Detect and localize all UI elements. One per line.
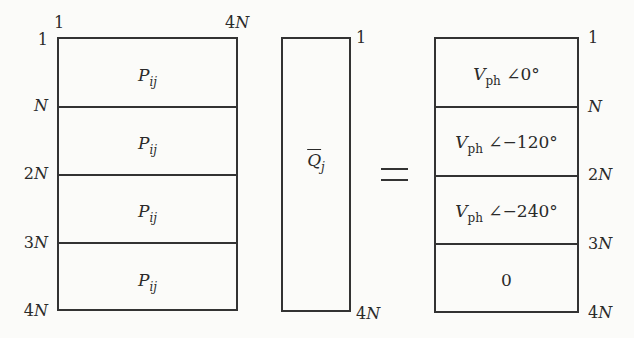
label-var: N bbox=[34, 96, 48, 115]
label-num: 2 bbox=[24, 164, 34, 183]
label-var: N bbox=[588, 97, 602, 116]
label-var: N bbox=[34, 233, 48, 252]
label-text: 1 bbox=[38, 30, 48, 49]
subscript: ph bbox=[485, 74, 500, 88]
angle-value: 0° bbox=[521, 64, 540, 84]
symbol: P bbox=[138, 201, 149, 221]
right-row-label-2N: 2N bbox=[588, 167, 612, 183]
angle-value: −120° bbox=[503, 132, 558, 152]
block-label-P-3: Pij bbox=[59, 201, 236, 223]
right-row-label-3N: 3N bbox=[588, 236, 612, 252]
left-row-label-4N: 4N bbox=[14, 303, 48, 319]
label-var: N bbox=[598, 165, 612, 184]
label-var: N bbox=[598, 234, 612, 253]
block-divider-2N bbox=[436, 175, 577, 177]
subscript: ph bbox=[468, 142, 483, 156]
subscript: ij bbox=[149, 75, 157, 89]
block-divider-N bbox=[59, 106, 236, 108]
angle-icon: ∠ bbox=[488, 201, 502, 221]
label-num: 2 bbox=[588, 165, 598, 184]
left-row-label-3N: 3N bbox=[14, 235, 48, 251]
right-row-label-1: 1 bbox=[588, 30, 598, 46]
middle-vector-Q: Qj bbox=[281, 37, 351, 312]
subscript: ij bbox=[149, 211, 157, 225]
label-var: N bbox=[34, 164, 48, 183]
label-num: 3 bbox=[588, 234, 598, 253]
right-vector-V: Vph ∠0° Vph ∠−120° Vph ∠−240° 0 bbox=[434, 37, 579, 313]
right-row-label-4N: 4N bbox=[588, 305, 612, 321]
block-label-V-minus240deg: Vph ∠−240° bbox=[436, 201, 577, 223]
block-label-P-2: Pij bbox=[59, 133, 236, 155]
label-num: 4 bbox=[588, 303, 598, 322]
equals-sign-top-bar bbox=[381, 168, 408, 170]
zero-value: 0 bbox=[501, 270, 512, 290]
equals-sign-bottom-bar bbox=[381, 179, 408, 181]
label-text: 1 bbox=[54, 13, 64, 32]
angle-icon: ∠ bbox=[506, 64, 520, 84]
block-divider-N bbox=[436, 106, 577, 108]
left-col-label-start: 1 bbox=[54, 15, 64, 31]
symbol: P bbox=[138, 270, 149, 290]
label-var: N bbox=[235, 13, 249, 32]
label-var: N bbox=[598, 303, 612, 322]
vector-label-Q: Qj bbox=[283, 150, 349, 172]
symbol: V bbox=[455, 201, 467, 221]
label-text: 1 bbox=[588, 28, 598, 47]
label-num: 4 bbox=[356, 304, 366, 323]
symbol: P bbox=[138, 133, 149, 153]
block-divider-3N bbox=[59, 242, 236, 244]
label-num: 3 bbox=[24, 233, 34, 252]
label-num: 4 bbox=[225, 13, 235, 32]
symbol: V bbox=[473, 64, 485, 84]
label-var: N bbox=[34, 301, 48, 320]
mid-row-label-start: 1 bbox=[356, 30, 366, 46]
symbol: V bbox=[455, 132, 467, 152]
block-label-V-minus120deg: Vph ∠−120° bbox=[436, 132, 577, 154]
angle-icon: ∠ bbox=[488, 132, 502, 152]
block-label-P-1: Pij bbox=[59, 65, 236, 87]
block-label-P-4: Pij bbox=[59, 270, 236, 292]
block-divider-2N bbox=[59, 174, 236, 176]
left-col-label-end: 4N bbox=[225, 15, 249, 31]
subscript: ij bbox=[149, 143, 157, 157]
block-divider-3N bbox=[436, 243, 577, 245]
angle-value: −240° bbox=[503, 201, 558, 221]
subscript: ij bbox=[149, 280, 157, 294]
left-row-label-N: N bbox=[14, 98, 48, 114]
block-label-V-0deg: Vph ∠0° bbox=[436, 64, 577, 86]
right-row-label-N: N bbox=[588, 99, 602, 115]
label-var: N bbox=[366, 304, 380, 323]
label-text: 1 bbox=[356, 28, 366, 47]
left-matrix-P: Pij Pij Pij Pij bbox=[57, 37, 238, 311]
label-num: 4 bbox=[24, 301, 34, 320]
mid-row-label-end: 4N bbox=[356, 306, 380, 322]
left-row-label-1: 1 bbox=[14, 32, 48, 48]
subscript: j bbox=[321, 160, 325, 174]
subscript: ph bbox=[468, 211, 483, 225]
symbol: Q bbox=[307, 150, 321, 170]
symbol: P bbox=[138, 65, 149, 85]
block-label-zero: 0 bbox=[436, 270, 577, 290]
matrix-equation-diagram: 1 4N 1 N 2N 3N 4N Pij Pij Pij Pij bbox=[0, 0, 634, 338]
left-row-label-2N: 2N bbox=[14, 166, 48, 182]
